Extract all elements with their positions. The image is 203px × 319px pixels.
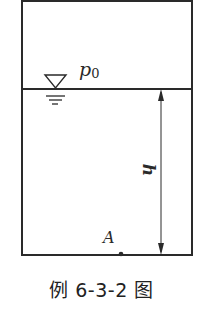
arrow-up-icon	[158, 89, 164, 101]
surface-pressure-label: p0	[79, 58, 99, 81]
tank-diagram: p0 h A	[0, 0, 203, 319]
arrow-down-icon	[158, 243, 164, 255]
point-a-dot	[119, 252, 124, 257]
point-a-label: A	[101, 228, 115, 247]
depth-label: h	[139, 164, 159, 176]
figure-caption: 例 6-3-2 图	[0, 275, 203, 302]
tank-walls	[21, 0, 193, 256]
